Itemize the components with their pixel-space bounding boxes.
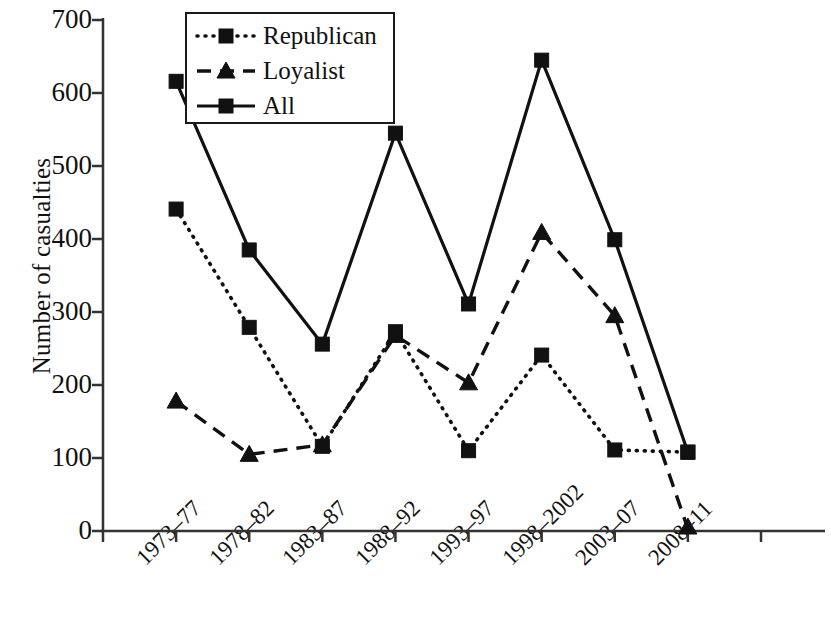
legend-label: Loyalist <box>257 58 345 83</box>
legend-dotted-square-icon <box>195 27 257 45</box>
data-point-marker <box>219 29 233 43</box>
data-point-marker <box>679 518 697 534</box>
series-loyalist <box>167 223 697 534</box>
data-series-layer <box>167 53 697 534</box>
series-line <box>176 232 688 528</box>
data-point-marker <box>169 202 183 216</box>
data-point-marker <box>533 223 551 239</box>
chart-figure: Number of casualties 0100200300400500600… <box>0 0 831 643</box>
data-point-marker <box>608 443 622 457</box>
legend-dashed-triangle-icon <box>195 62 257 80</box>
data-point-marker <box>462 297 476 311</box>
legend-solid-square-icon <box>195 97 257 115</box>
data-point-marker <box>608 233 622 247</box>
data-point-marker <box>169 74 183 88</box>
legend-item-republican[interactable]: Republican <box>187 18 393 53</box>
data-point-marker <box>242 243 256 257</box>
data-point-marker <box>462 444 476 458</box>
data-point-marker <box>219 99 233 113</box>
chart-legend: RepublicanLoyalistAll <box>185 12 395 124</box>
legend-item-all[interactable]: All <box>187 88 393 123</box>
data-point-marker <box>681 445 695 459</box>
data-point-marker <box>460 374 478 390</box>
data-point-marker <box>535 53 549 67</box>
data-point-marker <box>167 392 185 408</box>
legend-label: All <box>257 93 295 118</box>
data-point-marker <box>315 337 329 351</box>
data-point-marker <box>535 348 549 362</box>
plot-area <box>0 0 831 643</box>
data-point-marker <box>242 320 256 334</box>
data-point-marker <box>388 126 402 140</box>
legend-label: Republican <box>257 23 377 48</box>
legend-item-loyalist[interactable]: Loyalist <box>187 53 393 88</box>
